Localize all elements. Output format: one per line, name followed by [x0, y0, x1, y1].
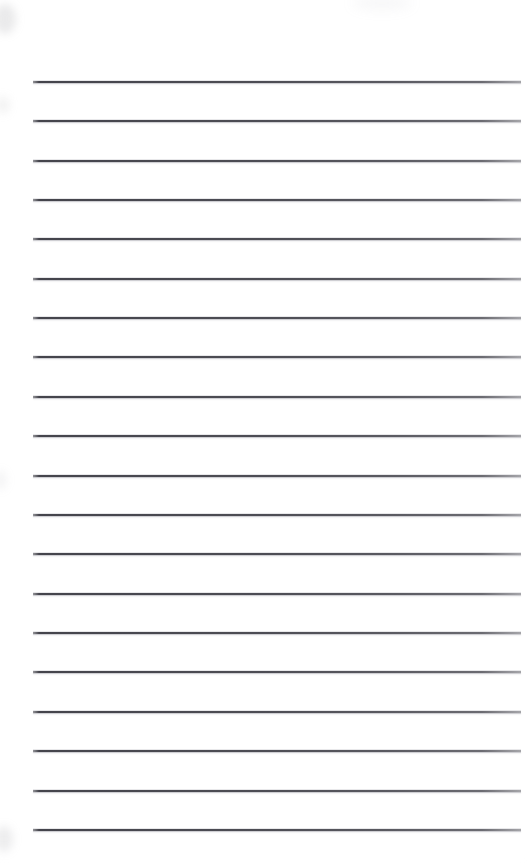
scanned-page: [0, 0, 527, 863]
ruled-line: [33, 671, 521, 673]
ruled-line: [33, 829, 521, 831]
ruled-line: [33, 553, 521, 555]
ruled-line: [33, 356, 521, 358]
ruled-line: [33, 278, 521, 280]
ruled-line: [33, 632, 521, 634]
ruled-line: [33, 160, 521, 162]
ruled-line: [33, 238, 521, 240]
ruled-line: [33, 790, 521, 792]
ruled-line: [33, 435, 521, 437]
ruled-line: [33, 514, 521, 516]
ruled-line: [33, 750, 521, 752]
ruled-line: [33, 396, 521, 398]
ruled-line: [33, 593, 521, 595]
ruled-line: [33, 317, 521, 319]
ruled-line: [33, 199, 521, 201]
ruled-line: [33, 475, 521, 477]
ruled-line: [33, 120, 521, 122]
ruled-line: [33, 81, 521, 83]
ruled-lines-layer: [0, 0, 527, 863]
ruled-line: [33, 711, 521, 713]
